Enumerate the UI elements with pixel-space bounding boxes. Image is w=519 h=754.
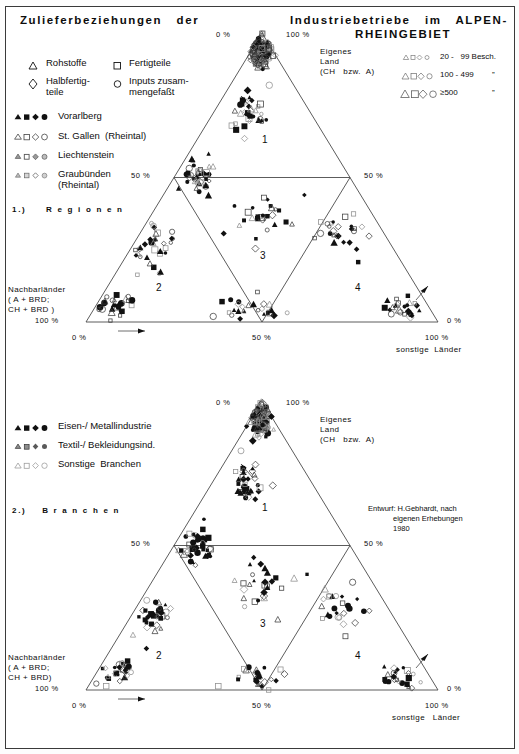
data-point [205, 535, 211, 541]
data-point [202, 517, 206, 521]
data-point [319, 603, 325, 608]
data-point [411, 672, 415, 676]
data-point [305, 573, 308, 576]
data-point [340, 621, 347, 628]
tri2-left-axis-3: CH + BRD) [8, 674, 52, 683]
data-point [273, 575, 278, 580]
data-point [247, 582, 252, 586]
data-point [179, 548, 183, 552]
data-point [130, 632, 135, 637]
data-point [240, 586, 248, 594]
data-point [94, 681, 99, 686]
data-point [382, 664, 386, 668]
data-point [137, 615, 140, 618]
data-point [280, 586, 284, 590]
tri2-apex-right-tick: 100 % [286, 399, 310, 407]
data-point [153, 622, 160, 629]
data-point [248, 562, 252, 566]
data-point [264, 435, 267, 438]
data-point [269, 482, 276, 489]
data-point [234, 469, 238, 473]
data-point [251, 573, 255, 577]
data-point [152, 628, 158, 634]
data-point [385, 672, 391, 677]
tri2-right-bottom-tick: 0 % [447, 685, 461, 693]
data-point [406, 675, 412, 681]
data-point [216, 683, 222, 689]
data-point [144, 646, 150, 652]
data-point [262, 666, 266, 670]
data-point [383, 679, 388, 684]
tri2-apex-axis-3: (CH bzw. A) [320, 436, 375, 445]
data-point [143, 608, 147, 612]
data-point [355, 597, 359, 601]
data-point [188, 559, 194, 565]
tri2-sector-2: 2 [156, 650, 162, 661]
data-point [113, 666, 117, 670]
data-point [281, 671, 288, 678]
ternary-diagram-branchen [0, 0, 519, 754]
tri2-bottom-left-tick: 0 % [72, 702, 86, 710]
data-point [257, 561, 264, 568]
tri2-right-mid-tick: 50 % [364, 540, 383, 548]
data-point [340, 594, 344, 598]
tri2-bottom-axis-name: sonstige Länder [392, 714, 460, 723]
data-point [236, 482, 240, 486]
data-point [340, 601, 345, 606]
data-point [238, 448, 244, 454]
tri2-left-axis-1: Nachbarländer [8, 654, 66, 663]
data-point [129, 670, 134, 675]
data-point [404, 667, 410, 673]
tri2-left-bottom-tick: 100 % [35, 685, 59, 693]
data-point [346, 605, 352, 611]
data-point [335, 611, 339, 615]
tri2-apex-axis-2: Land [320, 426, 339, 435]
data-point [165, 616, 169, 620]
data-point [349, 579, 355, 585]
data-point [232, 578, 237, 583]
data-point [419, 681, 422, 684]
data-point [145, 621, 149, 625]
data-point [341, 610, 347, 616]
data-point [241, 581, 246, 586]
data-point [200, 527, 205, 532]
data-point [159, 627, 163, 631]
tri2-bottom-right-tick: 100 % [425, 702, 449, 710]
data-point [256, 488, 262, 494]
data-point [194, 550, 200, 556]
data-point [252, 579, 256, 583]
data-point [206, 549, 209, 552]
data-point [153, 600, 158, 605]
data-point [361, 608, 367, 614]
data-point [321, 596, 327, 602]
data-point [260, 423, 265, 428]
data-point [185, 549, 189, 553]
data-point [332, 606, 338, 612]
tri2-sector-1: 1 [262, 502, 268, 513]
data-point [104, 683, 109, 688]
tri2-apex-axis-1: Eigenes [320, 416, 352, 425]
data-point [404, 682, 409, 687]
data-point [249, 437, 257, 445]
data-point [272, 428, 276, 432]
data-point [125, 658, 130, 663]
data-point [144, 597, 150, 603]
data-point [321, 616, 325, 620]
data-point [275, 616, 281, 622]
data-point [187, 552, 194, 559]
data-point [278, 667, 283, 672]
data-point [241, 595, 247, 600]
tri2-left-mid-tick: 50 % [131, 540, 150, 548]
data-point [273, 678, 279, 684]
data-point [252, 475, 258, 481]
data-point [366, 608, 372, 614]
data-point [128, 665, 131, 668]
data-point [252, 496, 258, 502]
data-point [200, 543, 205, 548]
tri2-sector-3: 3 [260, 618, 266, 629]
data-point [402, 666, 405, 669]
data-point [242, 604, 246, 608]
data-point [343, 634, 348, 639]
data-point [190, 539, 196, 545]
tri2-left-axis-2: ( A + BRD; [8, 664, 50, 673]
